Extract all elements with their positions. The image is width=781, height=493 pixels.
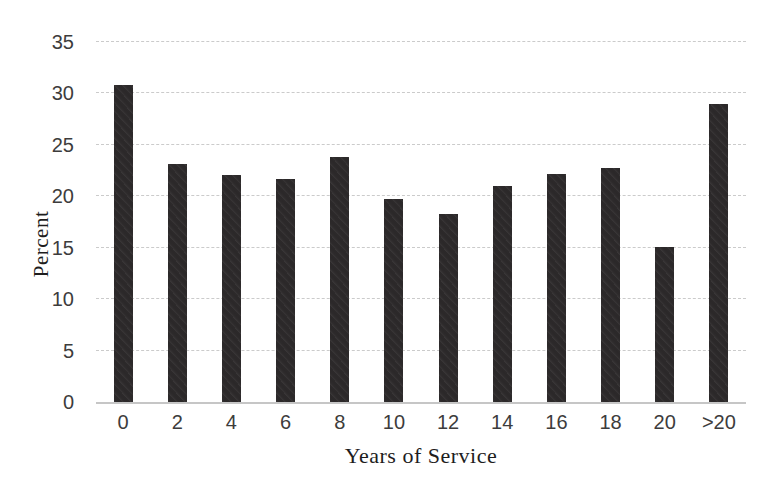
x-tick-label-14: 14 xyxy=(475,409,529,435)
x-tick-label-18: 18 xyxy=(584,409,638,435)
bar-4 xyxy=(222,175,241,402)
x-axis-ticks: 02468101214161820>20 xyxy=(96,409,746,437)
bar-18 xyxy=(601,168,620,403)
gridline-35 xyxy=(96,41,746,42)
y-tick-label-5: 5 xyxy=(4,338,74,364)
x-tick-label-20: 20 xyxy=(638,409,692,435)
bar-6 xyxy=(276,179,295,402)
bar-0 xyxy=(114,85,133,402)
bar-10 xyxy=(384,199,403,402)
x-axis-title: Years of Service xyxy=(96,443,746,469)
y-tick-label-0: 0 xyxy=(4,389,74,415)
y-tick-label-30: 30 xyxy=(4,80,74,106)
bar-14 xyxy=(493,186,512,402)
gridline-30 xyxy=(96,92,746,93)
gridline-10 xyxy=(96,298,746,299)
bar-8 xyxy=(330,157,349,402)
x-tick-label-16: 16 xyxy=(529,409,583,435)
x-tick-label-12: 12 xyxy=(421,409,475,435)
x-tick-label->20: >20 xyxy=(692,409,746,435)
x-tick-label-4: 4 xyxy=(204,409,258,435)
bar-16 xyxy=(547,174,566,402)
bar-chart-figure: Percent 05101520253035 02468101214161820… xyxy=(0,0,781,493)
bar-12 xyxy=(439,214,458,402)
y-tick-label-15: 15 xyxy=(4,235,74,261)
x-tick-label-0: 0 xyxy=(96,409,150,435)
bar-20 xyxy=(655,247,674,402)
y-tick-label-10: 10 xyxy=(4,286,74,312)
x-tick-label-8: 8 xyxy=(313,409,367,435)
bar->20 xyxy=(709,104,728,402)
y-axis-ticks: 05101520253035 xyxy=(0,42,86,402)
plot-area xyxy=(96,42,746,404)
gridline-20 xyxy=(96,195,746,196)
gridline-15 xyxy=(96,247,746,248)
x-tick-label-6: 6 xyxy=(259,409,313,435)
bar-2 xyxy=(168,164,187,402)
y-tick-label-20: 20 xyxy=(4,183,74,209)
y-tick-label-25: 25 xyxy=(4,132,74,158)
y-tick-label-35: 35 xyxy=(4,29,74,55)
x-tick-label-2: 2 xyxy=(150,409,204,435)
gridline-5 xyxy=(96,350,746,351)
gridline-25 xyxy=(96,144,746,145)
x-tick-label-10: 10 xyxy=(367,409,421,435)
